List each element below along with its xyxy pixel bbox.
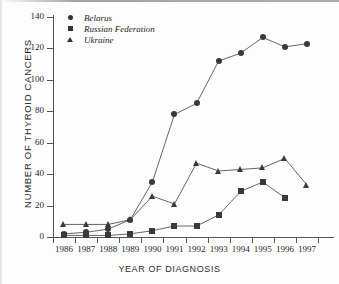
data-point [60, 221, 66, 227]
x-tick [252, 238, 253, 243]
data-point [304, 41, 310, 47]
legend-label: Ukraine [84, 35, 114, 45]
data-point [194, 223, 200, 229]
data-point [281, 155, 287, 161]
x-tick-label: 1996 [273, 244, 297, 254]
x-tick-label: 1994 [229, 244, 253, 254]
legend: Belarus Russian Federation Ukraine [64, 12, 155, 45]
legend-item-russian-federation: Russian Federation [64, 23, 155, 34]
x-tick [119, 238, 120, 243]
x-tick [141, 238, 142, 243]
data-point [238, 188, 244, 194]
data-point [215, 168, 221, 174]
x-tick-label: 1989 [118, 244, 142, 254]
x-tick [274, 238, 275, 243]
x-tick-label: 1995 [251, 244, 275, 254]
x-tick-label: 1987 [74, 244, 98, 254]
data-point [303, 182, 309, 188]
y-tick-label: 120 [14, 42, 44, 52]
x-tick [296, 238, 297, 243]
y-tick-label: 80 [14, 105, 44, 115]
x-tick-label: 1993 [207, 244, 231, 254]
y-tick-label: 100 [14, 74, 44, 84]
square-marker-icon [64, 26, 76, 31]
x-tick [75, 238, 76, 243]
x-tick-label: 1992 [185, 244, 209, 254]
data-point [105, 221, 111, 227]
x-tick-label: 1990 [140, 244, 164, 254]
y-tick-label: 40 [14, 168, 44, 178]
plot-area [53, 17, 318, 237]
x-tick [186, 238, 187, 243]
data-point [282, 195, 288, 201]
data-point [238, 50, 244, 56]
data-point [259, 164, 265, 170]
x-tick [230, 238, 231, 243]
x-axis-line [52, 237, 334, 238]
data-point [127, 231, 133, 237]
x-axis-title: YEAR OF DIAGNOSIS [0, 264, 339, 274]
x-tick-label: 1997 [295, 244, 319, 254]
x-tick [163, 238, 164, 243]
legend-label: Russian Federation [84, 24, 155, 34]
chart-figure: NUMBER OF THYROID CANCERS YEAR OF DIAGNO… [0, 0, 339, 284]
y-tick-label: 60 [14, 137, 44, 147]
x-tick-label: 1991 [162, 244, 186, 254]
x-tick [97, 238, 98, 243]
data-point [83, 232, 89, 238]
data-point [105, 232, 111, 238]
y-tick-label: 20 [14, 200, 44, 210]
series-line-belarus [64, 37, 307, 233]
data-point [61, 232, 67, 238]
scan-left-edge-artifact [0, 0, 2, 284]
data-point [237, 166, 243, 172]
legend-item-belarus: Belarus [64, 12, 155, 23]
x-tick [53, 238, 54, 243]
data-point [193, 160, 199, 166]
data-point [83, 221, 89, 227]
data-point [216, 212, 222, 218]
x-tick-label: 1986 [52, 244, 76, 254]
data-point [171, 223, 177, 229]
series-line-ukraine [64, 158, 307, 224]
y-tick-label: 0 [14, 231, 44, 241]
data-point [216, 58, 222, 64]
circle-marker-icon [64, 15, 76, 20]
scan-top-edge-artifact [0, 0, 339, 2]
data-point [127, 216, 133, 222]
series-lines [53, 17, 318, 237]
data-point [149, 193, 155, 199]
legend-item-ukraine: Ukraine [64, 34, 155, 45]
x-tick [208, 238, 209, 243]
data-point [282, 44, 288, 50]
triangle-marker-icon [64, 37, 76, 42]
y-tick-label: 140 [14, 11, 44, 21]
data-point [171, 201, 177, 207]
data-point [194, 100, 200, 106]
data-point [260, 179, 266, 185]
y-axis-title: NUMBER OF THYROID CANCERS [22, 24, 33, 224]
x-tick [318, 238, 319, 243]
data-point [149, 228, 155, 234]
x-tick-label: 1988 [96, 244, 120, 254]
legend-label: Belarus [84, 13, 112, 23]
